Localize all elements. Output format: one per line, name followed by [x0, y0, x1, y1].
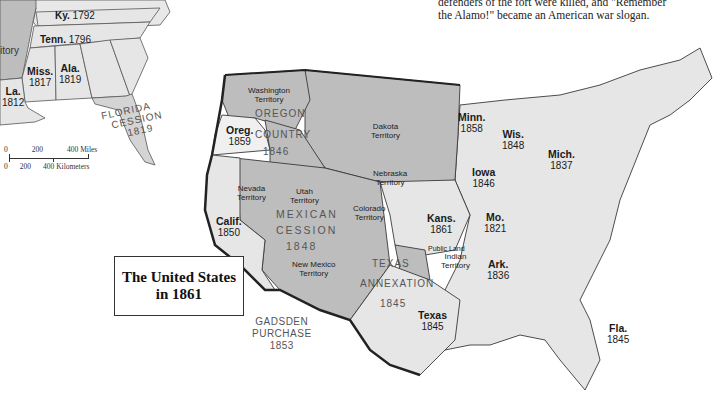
caption-line-1: defenders of the fort were killed, and "… — [438, 0, 666, 9]
label-miss: Miss.1817 — [27, 66, 53, 88]
map-title-line-2: in 1861 — [156, 286, 202, 303]
label-nevada-territory: NevadaTerritory — [237, 184, 266, 202]
inset-map — [0, 0, 170, 165]
label-mexican-cession: MEXICAN CESSION 1848 — [276, 208, 338, 252]
label-mich: Mich.1837 — [548, 149, 575, 171]
scale-bar: 0200400 Miles 0200400 Kilometers — [4, 145, 97, 171]
label-texas-annexation: TEXAS ANNEXATION 1845 — [360, 254, 434, 314]
label-kans: Kans.1861 — [427, 213, 456, 235]
map-title-line-1: The United States — [122, 269, 236, 286]
caption-text: defenders of the fort were killed, and "… — [438, 0, 666, 22]
label-dakota-territory: DakotaTerritory — [371, 122, 400, 140]
label-wis: Wis.1848 — [502, 129, 524, 151]
map-title: The United States in 1861 — [114, 256, 244, 316]
label-minn: Minn.1858 — [458, 112, 485, 134]
label-ala: Ala.1819 — [59, 63, 81, 85]
label-iowa: Iowa1846 — [472, 167, 495, 189]
caption-line-2: the Alamo!" became an American war sloga… — [438, 9, 666, 22]
label-gadsden-purchase: GADSDEN PURCHASE 1853 — [252, 316, 312, 352]
label-new-mexico-territory: New MexicoTerritory — [292, 260, 336, 278]
label-oregon-country: OREGON COUNTRY 1846 — [255, 108, 311, 157]
label-washington-territory: WashingtonTerritory — [248, 86, 290, 104]
label-mo: Mo.1821 — [484, 212, 506, 234]
label-nebraska-territory: NebraskaTerritory — [373, 169, 407, 187]
label-ky: Ky. 1792 — [55, 10, 95, 21]
label-oreg: Oreg.1859 — [226, 125, 253, 147]
label-ark: Ark.1836 — [487, 259, 509, 281]
label-fla: Fla.1845 — [607, 323, 629, 345]
label-la: La.1812 — [2, 86, 24, 108]
label-public-land: Public Land — [428, 244, 465, 253]
label-calif: Calif.1850 — [216, 216, 242, 238]
label-colorado-territory: ColoradoTerritory — [353, 204, 385, 222]
label-utah-territory: UtahTerritory — [290, 187, 319, 205]
label-territory-partial: itory — [0, 45, 19, 56]
label-indian-territory: IndianTerritory — [441, 252, 470, 270]
label-tenn: Tenn. 1796 — [40, 34, 91, 45]
